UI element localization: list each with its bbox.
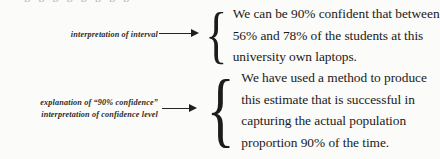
text-line: proportion 90% of the time. [241, 132, 426, 154]
annotation-line: interpretation of confidence level [13, 109, 158, 121]
text-line: We can be 90% confident that between [233, 3, 440, 25]
curly-brace-icon: { [207, 74, 235, 146]
confidence-level-interpretation-statement: { We have used a method to produce this … [201, 67, 427, 153]
statement-text: We have used a method to produce this es… [239, 67, 426, 153]
arrow-to-interval-statement [159, 29, 200, 39]
arrow-shaft [159, 33, 193, 34]
statement-text: We can be 90% confident that between 56%… [231, 3, 440, 68]
annotation-line: explanation of “90% confidence” [13, 97, 158, 109]
arrow-head [191, 29, 199, 37]
annotation-interpretation-of-interval: interpretation of interval [46, 29, 158, 41]
cropped-text-artifact: p p p p p p p p [24, 0, 214, 2]
arrow-to-confidence-level-statement [162, 104, 198, 114]
annotation-explanation-of-confidence-level: explanation of “90% confidence” interpre… [13, 97, 158, 120]
text-line: capturing the actual population [241, 110, 426, 132]
curly-brace-icon: { [205, 7, 227, 63]
arrow-head [189, 104, 197, 112]
annotation-line: interpretation of interval [46, 29, 158, 41]
text-line: We have used a method to produce [241, 67, 426, 89]
arrow-shaft [162, 108, 191, 109]
text-line: this estimate that is successful in [241, 89, 426, 111]
interval-interpretation-statement: { We can be 90% confident that between 5… [201, 3, 440, 68]
text-line: university own laptops. [233, 46, 440, 68]
text-line: 56% and 78% of the students at this [233, 25, 440, 47]
